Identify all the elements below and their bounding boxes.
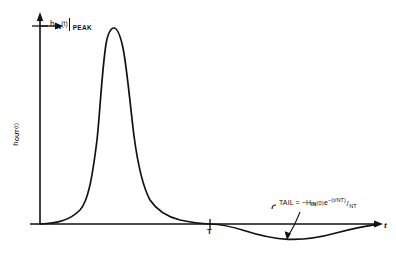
tail-denominator: NT [349, 203, 357, 209]
y-axis [37, 12, 43, 224]
tail-equation-label: TAIL = −HIN(0)e−(t/NT)/NT [279, 198, 357, 210]
tail-name: TAIL [279, 199, 293, 206]
impulse-response-figure: hIN(t)PEAK hOUT(t) T t TAIL = −HIN(0)e−(… [0, 0, 396, 272]
peak-value-label: hIN(t)PEAK [50, 18, 92, 32]
tail-equals: = [295, 199, 299, 206]
y-label-arg: (t) [13, 123, 19, 129]
y-label-subscript: OUT [14, 129, 20, 141]
x-axis-tick-label-T: T [207, 228, 212, 236]
tail-exponent: −(t/NT) [328, 197, 346, 203]
peak-label-condition: PEAK [73, 24, 92, 31]
x-axis-label-t: t [384, 222, 387, 230]
plot-canvas [0, 0, 396, 272]
tail-leader-line [272, 205, 300, 240]
y-axis-label: hOUT(t) [12, 104, 21, 164]
y-label-h: h [11, 141, 20, 145]
tail-arg: (0) [316, 200, 324, 206]
peak-label-arg: (t) [61, 20, 67, 27]
evaluation-bar-icon [69, 18, 70, 31]
